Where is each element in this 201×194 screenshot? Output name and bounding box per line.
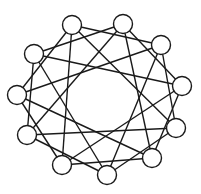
- edge-8-10: [27, 54, 34, 135]
- graph-node-9: [8, 86, 27, 105]
- edge-7-0: [62, 25, 72, 165]
- graph-node-8: [18, 126, 37, 145]
- node-layer: [8, 15, 192, 185]
- edge-1-5: [123, 24, 152, 158]
- graph-node-2: [152, 36, 171, 55]
- graph-node-6: [98, 166, 117, 185]
- graph-node-0: [63, 16, 82, 35]
- graph-node-7: [53, 156, 72, 175]
- graph-node-4: [167, 119, 186, 138]
- graph-node-10: [25, 45, 44, 64]
- edge-3-7: [62, 86, 182, 165]
- graph-node-1: [114, 15, 133, 34]
- graph-node-5: [143, 149, 162, 168]
- graph-diagram: [0, 0, 201, 194]
- graph-node-3: [173, 77, 192, 96]
